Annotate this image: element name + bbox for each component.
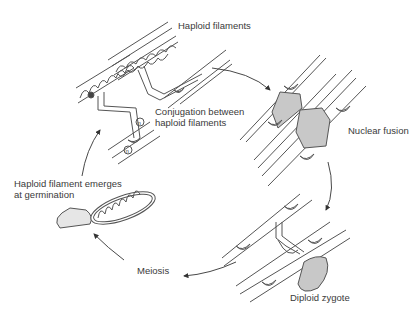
life-cycle-diagram: n n — [0, 0, 416, 316]
arrow-to-germination — [94, 234, 124, 260]
label-germination-line2: at germination — [14, 189, 122, 200]
diagram-graphics: n n — [0, 0, 416, 316]
label-nuclear-fusion: Nuclear fusion — [348, 125, 409, 136]
label-conjugation-line2: haploid filaments — [155, 117, 244, 128]
diploid-zygote-illustration — [222, 194, 350, 302]
n-marker-lower: n — [126, 148, 129, 154]
nuclear-fusion-illustration — [240, 55, 366, 186]
label-conjugation-line1: Conjugation between — [155, 106, 244, 117]
label-conjugation: Conjugation between haploid filaments — [155, 106, 244, 128]
label-meiosis: Meiosis — [137, 265, 169, 276]
label-germination-line1: Haploid filament emerges — [14, 178, 122, 189]
label-germination: Haploid filament emerges at germination — [14, 178, 122, 200]
label-diploid-zygote: Diploid zygote — [290, 292, 350, 303]
haploid-filaments-illustration — [76, 22, 232, 164]
arrow-to-nuclear-fusion — [212, 68, 270, 90]
arrow-to-haploid-filaments — [82, 130, 100, 176]
n-marker-upper: n — [138, 120, 141, 126]
arrow-to-meiosis — [184, 262, 236, 276]
arrow-to-diploid-zygote — [326, 162, 332, 210]
label-haploid-filaments: Haploid filaments — [178, 20, 251, 31]
